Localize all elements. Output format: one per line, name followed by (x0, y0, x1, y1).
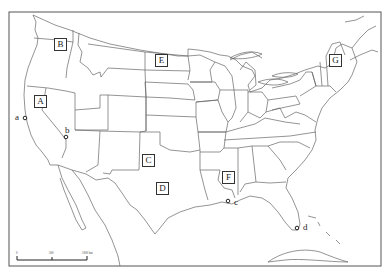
point-marker-a (23, 116, 27, 120)
point-marker-c (226, 199, 230, 203)
region-label-f: F (222, 171, 235, 184)
state-boundaries (24, 15, 378, 266)
point-label-a: a (15, 113, 19, 122)
region-label-c: C (142, 154, 155, 167)
point-marker-b (64, 135, 68, 139)
scale-bar (17, 256, 87, 260)
scale-tick-1000km: 1000 km (82, 251, 93, 255)
region-label-e: E (155, 54, 168, 67)
region-label-g: G (329, 54, 342, 67)
region-label-b: B (54, 38, 67, 51)
region-label-a: A (34, 95, 47, 108)
region-label-d: D (156, 182, 169, 195)
point-label-b: b (65, 126, 70, 135)
scale-tick-500: 500 (49, 251, 54, 255)
scale-tick-0: 0 (16, 251, 18, 255)
point-marker-d (295, 226, 299, 230)
point-label-d: d (303, 223, 308, 232)
point-label-c: c (234, 198, 238, 207)
